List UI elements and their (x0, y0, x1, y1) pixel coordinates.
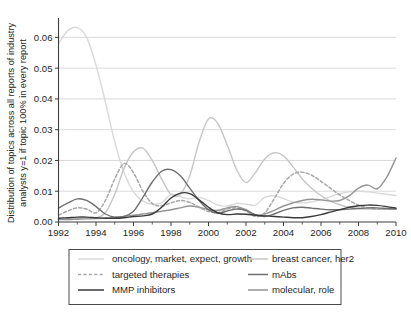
series-line (59, 27, 397, 206)
x-tick-label: 1992 (48, 227, 69, 238)
x-tick-label: 2004 (273, 227, 295, 238)
x-tick-label: 1994 (85, 227, 107, 238)
line-chart: 0.000.010.020.030.040.050.06199219941996… (0, 0, 411, 313)
legend-label: targeted therapies (112, 269, 190, 280)
axes-layer (55, 18, 396, 226)
x-tick-label: 1996 (123, 227, 144, 238)
y-axis-title-line2: analysts y=1 if topic 100% in every repo… (17, 22, 29, 222)
y-tick-label: 0.03 (34, 124, 53, 135)
figure-root: Distribution of topics across all report… (0, 0, 411, 313)
series-line (59, 118, 397, 219)
legend-label: MMP inhibitors (112, 284, 175, 295)
x-tick-label: 1998 (160, 227, 181, 238)
y-tick-label: 0.05 (34, 63, 53, 74)
y-tick-label: 0.06 (34, 32, 53, 43)
legend-label: breast cancer, her2 (272, 253, 354, 264)
x-tick-label: 2000 (198, 227, 219, 238)
y-axis-title-line1: Distribution of topics across all report… (6, 22, 18, 222)
y-tick-label: 0.04 (34, 93, 53, 104)
series-line (59, 169, 397, 217)
chart-legend: oncology, market, expect, growthbreast c… (69, 250, 354, 305)
y-axis-title: Distribution of topics across all report… (0, 0, 34, 245)
gridlines (59, 37, 397, 191)
x-tick-label: 2010 (385, 227, 406, 238)
x-tick-label: 2006 (310, 227, 331, 238)
legend-label: mAbs (272, 269, 297, 280)
legend-label: oncology, market, expect, growth (112, 253, 252, 264)
y-tick-label: 0.00 (34, 216, 53, 227)
series-layer (59, 27, 397, 219)
x-tick-label: 2002 (235, 227, 256, 238)
y-tick-label: 0.01 (34, 186, 53, 197)
legend-label: molecular, role (272, 284, 334, 295)
y-tick-label: 0.02 (34, 155, 53, 166)
x-tick-label: 2008 (348, 227, 369, 238)
